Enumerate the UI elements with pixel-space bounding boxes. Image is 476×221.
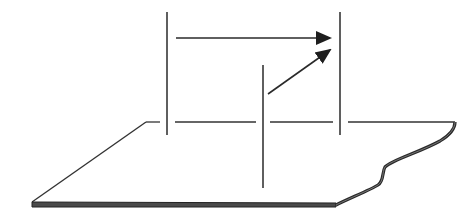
plane-right-torn-edge	[336, 122, 455, 205]
plane-left-edge	[32, 122, 146, 202]
plane-bottom-edge	[32, 202, 336, 207]
plane	[32, 122, 455, 207]
diagram-canvas	[0, 0, 476, 221]
diagram-svg	[0, 0, 476, 221]
diagonal-arrow	[268, 50, 330, 94]
plane-right-torn-edge-highlight	[336, 122, 455, 205]
